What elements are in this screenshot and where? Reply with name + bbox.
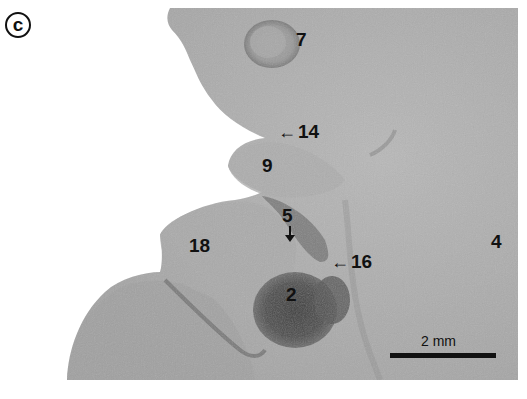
left-arrow-icon: ← bbox=[331, 252, 349, 272]
scale-bar bbox=[390, 353, 496, 358]
label-18: 18 bbox=[189, 236, 210, 255]
label-16: ←16 bbox=[331, 252, 372, 271]
scale-bar-label: 2 mm bbox=[421, 333, 456, 349]
tissue-region bbox=[67, 8, 518, 380]
label-4: 4 bbox=[491, 232, 502, 251]
label-9: 9 bbox=[262, 156, 273, 175]
label-14: ←14 bbox=[278, 122, 319, 141]
label-7: 7 bbox=[296, 30, 307, 49]
left-arrow-icon: ← bbox=[278, 122, 296, 142]
label-5: 5 bbox=[282, 206, 293, 225]
down-arrow-icon bbox=[289, 226, 291, 240]
label-2: 2 bbox=[286, 285, 297, 304]
